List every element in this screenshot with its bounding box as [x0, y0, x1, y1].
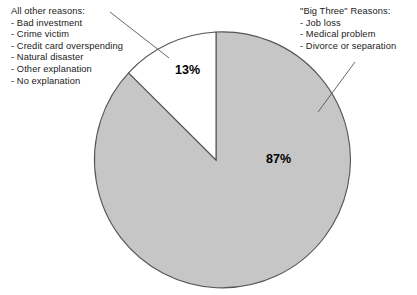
pie-chart-figure: All other reasons: - Bad investment - Cr… [0, 0, 417, 295]
legend-right-title: "Big Three" Reasons: [300, 6, 396, 18]
legend-all-other-reasons: All other reasons: - Bad investment - Cr… [11, 6, 123, 87]
legend-left-item: - Other explanation [11, 64, 123, 76]
legend-left-item: - Credit card overspending [11, 41, 123, 53]
slice-label-small: 13% [175, 63, 200, 77]
legend-left-item: - Crime victim [11, 29, 123, 41]
legend-left-item: - Bad investment [11, 18, 123, 30]
legend-right-item: - Divorce or separation [300, 41, 396, 53]
legend-left-title: All other reasons: [11, 6, 123, 18]
slice-label-large: 87% [266, 152, 291, 166]
legend-right-item: - Job loss [300, 18, 396, 30]
legend-right-item: - Medical problem [300, 29, 396, 41]
legend-left-item: - No explanation [11, 76, 123, 88]
legend-left-item: - Natural disaster [11, 52, 123, 64]
legend-big-three-reasons: "Big Three" Reasons: - Job loss - Medica… [300, 6, 396, 52]
